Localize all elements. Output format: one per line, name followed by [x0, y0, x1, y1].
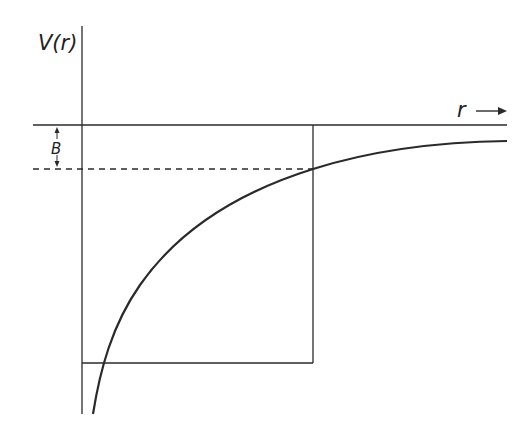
- gap-label-b: B: [51, 140, 61, 158]
- potential-curve: [93, 141, 507, 414]
- x-axis-label: r: [457, 98, 467, 122]
- potential-diagram: V(r) r B: [0, 0, 531, 426]
- r-arrow-icon: [476, 107, 507, 115]
- y-axis-label: V(r): [38, 31, 77, 55]
